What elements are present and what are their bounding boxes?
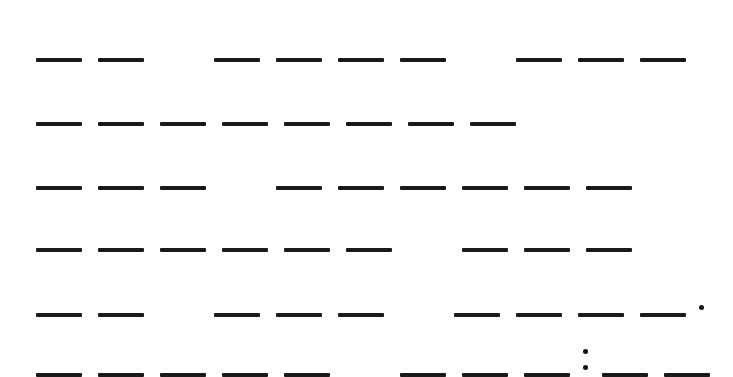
letter-blank[interactable]	[36, 248, 82, 252]
puzzle-row-2	[36, 120, 532, 126]
letter-blank[interactable]	[578, 58, 624, 62]
letter-blank[interactable]	[524, 373, 570, 377]
letter-blank[interactable]	[284, 248, 330, 252]
letter-blank[interactable]	[36, 122, 82, 126]
letter-blank[interactable]	[346, 248, 392, 252]
letter-blank[interactable]	[408, 122, 454, 126]
letter-blank[interactable]	[160, 122, 206, 126]
letter-blank[interactable]	[160, 373, 206, 377]
letter-blank[interactable]	[400, 58, 446, 62]
letter-blank[interactable]	[160, 186, 206, 190]
letter-blank[interactable]	[346, 122, 392, 126]
letter-blank[interactable]	[98, 122, 144, 126]
letter-blank[interactable]	[36, 58, 82, 62]
letter-blank[interactable]	[524, 248, 570, 252]
letter-blank[interactable]	[98, 248, 144, 252]
letter-blank[interactable]	[462, 373, 508, 377]
letter-blank[interactable]	[214, 58, 260, 62]
letter-blank[interactable]	[524, 186, 570, 190]
letter-blank[interactable]	[516, 58, 562, 62]
letter-blank[interactable]	[222, 373, 268, 377]
letter-blank[interactable]	[602, 373, 648, 377]
letter-blank[interactable]	[640, 313, 686, 317]
letter-blank[interactable]	[36, 373, 82, 377]
puzzle-row-3	[36, 184, 648, 190]
letter-blank[interactable]	[284, 122, 330, 126]
letter-blank[interactable]	[276, 58, 322, 62]
puzzle-row-5	[36, 311, 718, 317]
letter-blank[interactable]	[222, 248, 268, 252]
letter-blank[interactable]	[400, 186, 446, 190]
letter-blank[interactable]	[338, 58, 384, 62]
letter-blank[interactable]	[462, 186, 508, 190]
letter-blank[interactable]	[640, 58, 686, 62]
letter-blank[interactable]	[586, 248, 632, 252]
letter-blank[interactable]	[98, 186, 144, 190]
letter-blank[interactable]	[276, 186, 322, 190]
letter-blank[interactable]	[98, 373, 144, 377]
letter-blank[interactable]	[222, 122, 268, 126]
letter-blank[interactable]	[454, 313, 500, 317]
letter-blank[interactable]	[214, 313, 260, 317]
letter-blank[interactable]	[470, 122, 516, 126]
letter-blank[interactable]	[36, 186, 82, 190]
letter-blank[interactable]	[338, 186, 384, 190]
letter-blank[interactable]	[586, 186, 632, 190]
letter-blank[interactable]	[284, 373, 330, 377]
puzzle-row-4	[36, 246, 648, 252]
letter-blank[interactable]	[462, 248, 508, 252]
letter-blank[interactable]	[338, 313, 384, 317]
letter-blank[interactable]	[98, 313, 144, 317]
puzzle-row-6	[36, 371, 726, 377]
letter-blank[interactable]	[664, 373, 710, 377]
colon-dot-top	[583, 349, 588, 354]
letter-blank[interactable]	[578, 313, 624, 317]
letter-blank[interactable]	[98, 58, 144, 62]
colon-dot-bottom	[583, 365, 588, 370]
letter-blank[interactable]	[400, 373, 446, 377]
letter-blank[interactable]	[36, 313, 82, 317]
letter-blank[interactable]	[516, 313, 562, 317]
puzzle-row-1	[36, 56, 702, 62]
letter-blank[interactable]	[160, 248, 206, 252]
letter-blank[interactable]	[276, 313, 322, 317]
period-dot	[699, 305, 704, 310]
